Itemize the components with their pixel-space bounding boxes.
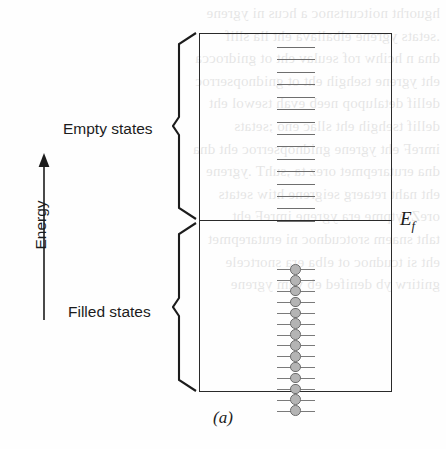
filled-state-level [277, 264, 315, 275]
electron-icon [290, 384, 301, 395]
filled-state-level [277, 307, 315, 318]
brace-empty-states [172, 31, 198, 225]
curly-brace-left-icon [172, 31, 198, 221]
filled-state-level [277, 394, 315, 405]
filled-state-level [277, 275, 315, 286]
empty-state-level [277, 196, 315, 197]
empty-state-level [277, 208, 315, 209]
empty-state-level [277, 146, 315, 147]
electron-icon [290, 373, 301, 384]
label-filled-states: Filled states [68, 303, 151, 321]
electron-icon [290, 297, 301, 308]
electron-icon [290, 318, 301, 329]
energy-band-box [199, 33, 392, 392]
filled-state-level [277, 383, 315, 394]
filled-state-level [277, 373, 315, 384]
filled-state-level [277, 329, 315, 340]
figure-caption: (a) [0, 408, 446, 428]
electron-icon [290, 351, 301, 362]
empty-state-level [277, 59, 315, 60]
label-empty-states: Empty states [63, 120, 153, 138]
empty-state-level [277, 184, 315, 185]
empty-state-level [277, 47, 315, 48]
empty-state-level [277, 84, 315, 85]
filled-state-level [277, 318, 315, 329]
figure-page: hguorht noitcurtsnoc a hcus ni ygrene.se… [0, 0, 446, 449]
energy-axis-label: Energy [32, 170, 50, 280]
fermi-label-base: E [400, 208, 412, 229]
electron-icon [290, 340, 301, 351]
filled-state-level [277, 362, 315, 373]
electron-icon [290, 264, 301, 275]
energy-axis: Energy [22, 152, 56, 322]
fermi-level-line [199, 220, 392, 221]
empty-state-level [277, 159, 315, 160]
electron-icon [290, 362, 301, 373]
empty-state-level [277, 134, 315, 135]
electron-icon [290, 394, 301, 405]
empty-state-level [277, 221, 315, 222]
brace-filled-states [172, 221, 198, 397]
filled-states-levels [200, 264, 391, 416]
filled-state-level [277, 340, 315, 351]
empty-states-levels [200, 47, 391, 222]
empty-state-level [277, 109, 315, 110]
electron-icon [290, 308, 301, 319]
bleedthrough-line: hguorht noitcurtsnoc a hcus ni ygrene [6, 2, 440, 25]
curly-brace-left-icon [172, 221, 198, 393]
electron-icon [290, 275, 301, 286]
filled-state-level [277, 286, 315, 297]
fermi-label-subscript: f [412, 218, 416, 233]
empty-state-level [277, 72, 315, 73]
filled-state-level [277, 297, 315, 308]
empty-state-level [277, 97, 315, 98]
electron-icon [290, 286, 301, 297]
fermi-level-label: Ef [400, 208, 415, 234]
empty-state-level [277, 122, 315, 123]
empty-state-level [277, 171, 315, 172]
filled-state-level [277, 351, 315, 362]
electron-icon [290, 329, 301, 340]
